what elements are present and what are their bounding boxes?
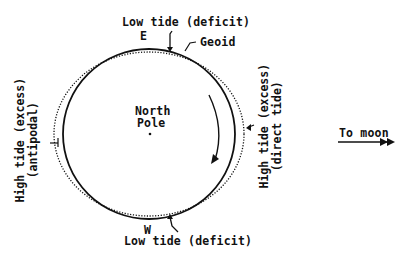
- north-pole-dot: [149, 133, 152, 136]
- rotation-arrowhead-icon: [211, 154, 219, 164]
- left-high-tide-line2: (antipodal): [28, 78, 41, 203]
- geoid-label: Geoid: [200, 37, 236, 49]
- right-high-tide-label: High tide (excess) (direct tide): [258, 64, 284, 189]
- right-high-tide-line2: (direct tide): [272, 64, 285, 189]
- north-pole-label-line2: Pole: [137, 118, 166, 130]
- to-moon-label: To moon: [339, 128, 389, 140]
- rotation-arrow: [209, 95, 219, 160]
- bottom-low-tide-pointer: [170, 217, 178, 232]
- bottom-low-tide-label: Low tide (deficit): [124, 236, 252, 248]
- east-label: E: [140, 31, 147, 43]
- geoid-pointer: [185, 42, 196, 51]
- top-low-tide-label: Low tide (deficit): [122, 17, 250, 29]
- right-pointer-arrowhead-icon: [246, 124, 251, 131]
- left-high-tide-label: High tide (excess) (antipodal): [14, 78, 40, 203]
